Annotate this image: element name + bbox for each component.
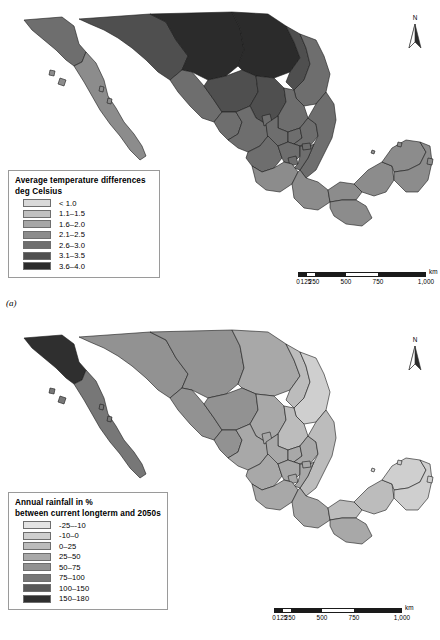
region-baja-california[interactable] bbox=[24, 335, 86, 384]
scale-tick: 1,000 bbox=[418, 278, 435, 285]
region-tlaxcala[interactable] bbox=[302, 143, 311, 150]
panel-label-a: (a) bbox=[6, 298, 17, 308]
legend-item: 100–150 bbox=[15, 583, 161, 594]
legend-item: 25–50 bbox=[15, 552, 161, 563]
region-baja-california-sur[interactable] bbox=[74, 52, 146, 160]
region-oaxaca[interactable] bbox=[292, 170, 330, 210]
region-baja-california[interactable] bbox=[24, 17, 86, 66]
scale-tick: 250 bbox=[309, 278, 320, 285]
figure-panel-b: N Annual rainfall in % between current l… bbox=[0, 318, 440, 640]
north-arrow-icon bbox=[404, 22, 426, 52]
region-oaxaca[interactable] bbox=[292, 488, 330, 528]
north-arrow-a: N bbox=[404, 14, 426, 54]
scale-tick: 750 bbox=[349, 614, 360, 621]
legend-swatch bbox=[23, 532, 51, 540]
island-small-1 bbox=[397, 142, 402, 147]
island-small-2 bbox=[371, 150, 375, 154]
legend-item: 1.1–1.5 bbox=[15, 209, 153, 220]
island-baja-3 bbox=[58, 78, 66, 86]
scale-tick: 0 bbox=[296, 278, 300, 285]
region-tlaxcala[interactable] bbox=[302, 461, 311, 468]
island-baja-1 bbox=[99, 86, 104, 92]
legend-label: 0–25 bbox=[59, 542, 76, 551]
scale-bar-unit: km bbox=[405, 604, 414, 611]
legend-title: Average temperature differences bbox=[15, 175, 153, 186]
region-baja-california-sur[interactable] bbox=[74, 370, 146, 478]
north-arrow-b: N bbox=[404, 336, 426, 376]
legend-swatch bbox=[23, 231, 51, 239]
scale-tick: 250 bbox=[285, 614, 296, 621]
island-baja-3 bbox=[58, 396, 66, 404]
legend-label: 1.6–2.0 bbox=[59, 220, 85, 229]
north-arrow-letter: N bbox=[404, 14, 426, 22]
legend-item: -25–-10 bbox=[15, 520, 161, 531]
legend-label: 2.6–3.0 bbox=[59, 241, 85, 250]
legend-swatch bbox=[23, 553, 51, 561]
legend-item: 3.1–3.5 bbox=[15, 251, 153, 262]
north-arrow-icon bbox=[404, 344, 426, 374]
scale-tick: 500 bbox=[317, 614, 328, 621]
scale-bar-ticks: km 0 125 250 500 750 1,000 bbox=[298, 277, 438, 288]
scale-tick: 0 bbox=[272, 614, 276, 621]
legend-item: 75–100 bbox=[15, 573, 161, 584]
island-small-2 bbox=[371, 468, 375, 472]
legend-class-list: < 1.0 1.1–1.5 1.6–2.0 2.1–2.5 2.6–3.0 3.… bbox=[15, 198, 153, 272]
island-small-1 bbox=[397, 460, 402, 465]
legend-subtitle: deg Celsius bbox=[15, 186, 153, 197]
scale-tick: 500 bbox=[341, 278, 352, 285]
legend-swatch bbox=[23, 241, 51, 249]
legend-item: 150–180 bbox=[15, 594, 161, 605]
legend-item: 0–25 bbox=[15, 541, 161, 552]
legend-label: 100–150 bbox=[59, 584, 89, 593]
legend-swatch bbox=[23, 199, 51, 207]
legend-subtitle: between current longterm and 2050s bbox=[15, 508, 161, 519]
legend-item: < 1.0 bbox=[15, 198, 153, 209]
legend-label: 25–50 bbox=[59, 552, 81, 561]
legend-label: -10–0 bbox=[59, 531, 79, 540]
region-chiapas[interactable] bbox=[330, 200, 372, 226]
legend-temperature: Average temperature differences deg Cels… bbox=[8, 170, 160, 278]
region-chiapas[interactable] bbox=[330, 518, 372, 544]
legend-swatch bbox=[23, 574, 51, 582]
legend-swatch bbox=[23, 210, 51, 218]
legend-swatch bbox=[23, 595, 51, 603]
scale-tick: 1,000 bbox=[394, 614, 411, 621]
legend-label: 50–75 bbox=[59, 563, 81, 572]
legend-swatch bbox=[23, 252, 51, 260]
island-baja-1 bbox=[99, 404, 104, 410]
legend-label: 1.1–1.5 bbox=[59, 209, 85, 218]
legend-item: 1.6–2.0 bbox=[15, 219, 153, 230]
legend-label: 2.1–2.5 bbox=[59, 230, 85, 239]
legend-swatch bbox=[23, 220, 51, 228]
island-baja-2 bbox=[107, 98, 112, 104]
scale-bar-a: km 0 125 250 500 750 1,000 bbox=[298, 272, 438, 288]
legend-rainfall: Annual rainfall in % between current lon… bbox=[8, 492, 168, 610]
island-baja-4 bbox=[49, 388, 55, 394]
figure-panel-a: N Average temperature differences deg Ce… bbox=[0, 0, 440, 300]
legend-title: Annual rainfall in % bbox=[15, 497, 161, 508]
scale-bar-unit: km bbox=[429, 268, 438, 275]
island-cozumel bbox=[427, 476, 433, 483]
legend-swatch bbox=[23, 542, 51, 550]
legend-item: 2.6–3.0 bbox=[15, 240, 153, 251]
legend-swatch bbox=[23, 262, 51, 270]
island-cozumel bbox=[427, 158, 433, 165]
legend-label: < 1.0 bbox=[59, 199, 77, 208]
legend-label: 150–180 bbox=[59, 594, 89, 603]
scale-bar-b: km 0 125 250 500 750 1,000 bbox=[274, 608, 414, 624]
legend-class-list: -25–-10 -10–0 0–25 25–50 50–75 75–100 bbox=[15, 520, 161, 604]
legend-swatch bbox=[23, 584, 51, 592]
scale-bar-ticks: km 0 125 250 500 750 1,000 bbox=[274, 613, 414, 624]
legend-item: 50–75 bbox=[15, 562, 161, 573]
legend-swatch bbox=[23, 563, 51, 571]
scale-tick: 750 bbox=[373, 278, 384, 285]
legend-label: 75–100 bbox=[59, 573, 85, 582]
legend-label: -25–-10 bbox=[59, 521, 86, 530]
island-baja-2 bbox=[107, 416, 112, 422]
legend-label: 3.1–3.5 bbox=[59, 251, 85, 260]
legend-item: 2.1–2.5 bbox=[15, 230, 153, 241]
legend-item: 3.6–4.0 bbox=[15, 261, 153, 272]
legend-item: -10–0 bbox=[15, 531, 161, 542]
legend-swatch bbox=[23, 521, 51, 529]
island-baja-4 bbox=[49, 70, 55, 76]
